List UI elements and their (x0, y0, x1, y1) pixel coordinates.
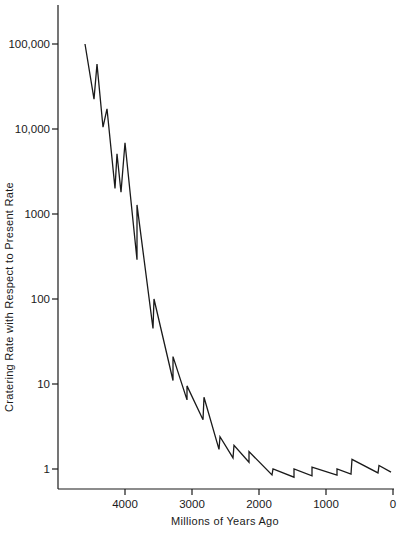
y-tick-label: 10,000 (15, 123, 50, 135)
y-axis-ticks: 110100100010,000100,000 (8, 38, 58, 475)
y-tick-label: 1 (44, 463, 50, 475)
x-tick-label: 3000 (179, 498, 205, 510)
x-tick-label: 2000 (246, 498, 272, 510)
y-tick-label: 10 (37, 378, 50, 390)
x-axis-ticks: 40003000200010000 (112, 489, 396, 510)
y-axis-title: Cratering Rate with Respect to Present R… (3, 182, 15, 412)
y-tick-label: 100 (31, 293, 50, 305)
y-tick-label: 100,000 (8, 38, 50, 50)
x-tick-label: 4000 (112, 498, 138, 510)
cratering-rate-line (85, 44, 391, 477)
x-axis: 40003000200010000 (58, 489, 396, 510)
cratering-rate-chart: 110100100010,000100,000 4000300020001000… (0, 0, 407, 533)
x-tick-label: 1000 (313, 498, 339, 510)
y-tick-label: 1000 (24, 208, 50, 220)
y-axis: 110100100010,000100,000 (8, 5, 58, 489)
x-tick-label: 0 (390, 498, 396, 510)
x-axis-title: Millions of Years Ago (171, 515, 279, 527)
